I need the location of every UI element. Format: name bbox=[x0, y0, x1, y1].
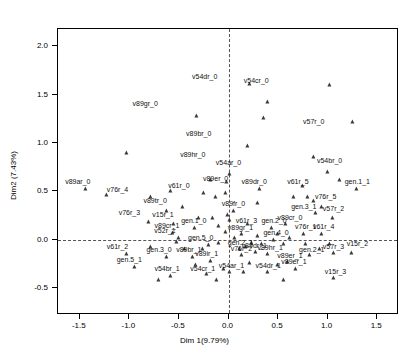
point-label: v89er_0 bbox=[203, 175, 228, 183]
x-axis-tick bbox=[79, 314, 80, 319]
point-label: v76r_3 bbox=[119, 209, 140, 217]
data-point bbox=[256, 200, 260, 204]
y-axis-tick bbox=[52, 94, 57, 95]
x-axis-tick bbox=[277, 314, 278, 319]
data-point bbox=[216, 223, 220, 227]
x-axis-label: Dim 1(9.79%) bbox=[0, 336, 409, 345]
point-label: v61r_0 bbox=[168, 182, 189, 190]
data-point bbox=[266, 270, 270, 274]
data-point bbox=[228, 270, 232, 274]
data-point bbox=[164, 254, 168, 258]
point-label: v15r_3 bbox=[325, 268, 346, 276]
x-axis-tick-label: -0.5 bbox=[171, 321, 185, 330]
point-label: v54cr_1 bbox=[190, 265, 215, 273]
data-point bbox=[228, 171, 232, 175]
data-point bbox=[168, 274, 172, 278]
point-label: gen.3_0 bbox=[146, 246, 171, 254]
plot-panel: v54dr_0v89gr_0v57r_0v54cr_0v89br_0v89hr_… bbox=[57, 28, 398, 314]
point-label: v15r_1 bbox=[152, 211, 173, 219]
point-label: v54br_0 bbox=[317, 157, 342, 165]
y-axis-tick-label: 2.0 bbox=[37, 41, 48, 50]
y-axis-tick-label: 1.5 bbox=[37, 89, 48, 98]
data-point bbox=[350, 251, 354, 255]
y-axis-tick-label: 0.5 bbox=[37, 186, 48, 195]
data-point bbox=[206, 243, 210, 247]
data-point bbox=[271, 237, 275, 241]
data-point bbox=[242, 270, 246, 274]
y-axis-tick-label: -0.5 bbox=[34, 282, 48, 291]
point-label: v54ar_1 bbox=[219, 262, 244, 270]
data-point bbox=[262, 115, 266, 119]
point-label: v89cr_0 bbox=[278, 214, 303, 222]
data-point bbox=[213, 195, 217, 199]
x-axis-tick-label: -1.5 bbox=[72, 321, 86, 330]
data-point bbox=[214, 278, 218, 282]
point-label: v57r_2 bbox=[323, 205, 344, 213]
y-axis-tick bbox=[52, 45, 57, 46]
data-point bbox=[305, 195, 309, 199]
x-axis-tick-label: 1.5 bbox=[371, 321, 382, 330]
x-axis-tick bbox=[228, 314, 229, 319]
point-label: v54cr_0 bbox=[244, 77, 269, 85]
data-point bbox=[240, 231, 244, 235]
point-label: v89hr_0 bbox=[180, 151, 205, 159]
data-point bbox=[330, 216, 334, 220]
point-label: gen.5_1 bbox=[117, 256, 142, 264]
data-point bbox=[201, 191, 205, 195]
point-label: v54br_1 bbox=[154, 265, 179, 273]
x-axis-tick-label: 0.5 bbox=[272, 321, 283, 330]
data-point bbox=[180, 204, 184, 208]
data-point bbox=[133, 264, 137, 268]
data-point bbox=[208, 258, 212, 262]
data-point bbox=[194, 113, 198, 117]
point-label: v61r_5 bbox=[287, 178, 308, 186]
point-label: v89dr_0 bbox=[242, 178, 267, 186]
x-axis-tick-label: 1.0 bbox=[321, 321, 332, 330]
data-point bbox=[228, 218, 232, 222]
point-label: v54dr_0 bbox=[192, 73, 217, 81]
point-label: gen.4_0 bbox=[263, 229, 288, 237]
point-label: gen.1_0 bbox=[181, 217, 206, 225]
data-point bbox=[248, 260, 252, 264]
point-label: v54dr_1 bbox=[255, 262, 280, 270]
data-point bbox=[83, 187, 87, 191]
data-point bbox=[223, 229, 227, 233]
point-label: v89ar_0 bbox=[65, 178, 90, 186]
data-point bbox=[311, 154, 315, 158]
data-point bbox=[210, 216, 214, 220]
data-point bbox=[266, 252, 270, 256]
data-point bbox=[258, 187, 262, 191]
data-point bbox=[223, 191, 227, 195]
data-point bbox=[355, 187, 359, 191]
point-label: v76r_5 bbox=[315, 193, 336, 201]
x-axis-tick bbox=[327, 314, 328, 319]
data-point bbox=[303, 241, 307, 245]
point-label: v54ar_0 bbox=[216, 159, 241, 167]
point-label: v89gr_0 bbox=[133, 100, 158, 108]
y-axis-label: Dim2 (7.43%) bbox=[9, 126, 18, 226]
point-label: v89tr_0 bbox=[143, 197, 166, 205]
data-point bbox=[256, 233, 260, 237]
point-label: gen.3_1 bbox=[291, 203, 316, 211]
data-point bbox=[266, 100, 270, 104]
point-label: v89ir_1 bbox=[195, 250, 218, 258]
y-axis-tick bbox=[52, 190, 57, 191]
data-point bbox=[331, 251, 335, 255]
data-point bbox=[216, 240, 220, 244]
data-point bbox=[225, 212, 229, 216]
data-point bbox=[174, 239, 178, 243]
point-label: v76r_2 bbox=[231, 245, 252, 253]
x-axis-tick bbox=[128, 314, 129, 319]
data-point bbox=[190, 254, 194, 258]
point-label: v89fr_0 bbox=[222, 200, 245, 208]
point-label: gen.5_0 bbox=[188, 234, 213, 242]
point-label: v57r_3 bbox=[323, 243, 344, 251]
data-point bbox=[147, 220, 151, 224]
y-axis-tick-label: 1.0 bbox=[37, 138, 48, 147]
data-point bbox=[319, 231, 323, 235]
point-label: v89br_0 bbox=[186, 130, 211, 138]
data-point bbox=[281, 278, 285, 282]
y-axis-tick bbox=[52, 239, 57, 240]
point-label: v61r_2 bbox=[107, 243, 128, 251]
x-axis-tick bbox=[376, 314, 377, 319]
